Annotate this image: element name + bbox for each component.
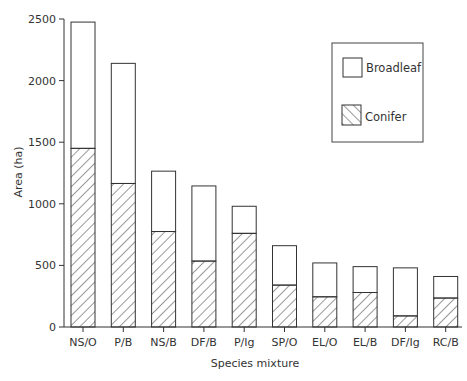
bar-broadleaf (273, 246, 297, 285)
bar-conifer (353, 293, 377, 327)
y-tick-label: 2000 (28, 75, 56, 88)
bar-conifer (192, 261, 216, 327)
y-tick-label: 0 (49, 321, 56, 334)
x-tick-label: NS/B (150, 336, 176, 349)
bar-broadleaf (71, 22, 95, 148)
x-tick-label: SP/O (272, 336, 298, 349)
legend: Broadleaf Conifer (332, 43, 423, 142)
bar-conifer (434, 298, 458, 327)
y-tick-label: 2500 (28, 13, 56, 26)
bar-broadleaf (353, 267, 377, 293)
y-tick-label: 1000 (28, 198, 56, 211)
x-tick-label: EL/B (353, 336, 377, 349)
bar-broadleaf (192, 186, 216, 261)
bar-conifer (393, 316, 417, 327)
x-axis-title: Species mixture (211, 357, 300, 370)
x-tick-label: EL/O (312, 336, 338, 349)
x-tick-label: P/B (114, 336, 132, 349)
x-tick-label: NS/O (69, 336, 97, 349)
y-tick-label: 1500 (28, 136, 56, 149)
bar-conifer (232, 233, 256, 327)
x-tick-label: DF/B (191, 336, 217, 349)
bar-broadleaf (152, 171, 176, 231)
bar-conifer (152, 232, 176, 327)
bar-broadleaf (393, 268, 417, 316)
bar-conifer (313, 297, 337, 327)
legend-swatch-broadleaf (343, 58, 362, 77)
bar-conifer (71, 148, 95, 327)
legend-swatch-conifer (342, 105, 361, 125)
y-axis-title: Area (ha) (12, 146, 25, 197)
y-tick-labels: 05001000150020002500 (28, 13, 64, 334)
legend-label-broadleaf: Broadleaf (366, 61, 422, 75)
x-tick-label: RC/B (433, 336, 459, 349)
bar-conifer (111, 183, 135, 327)
x-tick-label: P/Ig (234, 336, 255, 349)
bar-broadleaf (111, 63, 135, 183)
y-tick-label: 500 (35, 259, 56, 272)
stacked-bar-chart: NS/OP/BNS/BDF/BP/IgSP/OEL/OEL/BDF/IgRC/B… (0, 0, 467, 381)
x-tick-label: DF/Ig (391, 336, 420, 349)
x-tick-labels: NS/OP/BNS/BDF/BP/IgSP/OEL/OEL/BDF/IgRC/B (69, 327, 459, 349)
bar-broadleaf (434, 276, 458, 298)
bar-broadleaf (232, 206, 256, 233)
bar-conifer (273, 285, 297, 327)
legend-label-conifer: Conifer (365, 110, 407, 124)
bar-broadleaf (313, 263, 337, 297)
